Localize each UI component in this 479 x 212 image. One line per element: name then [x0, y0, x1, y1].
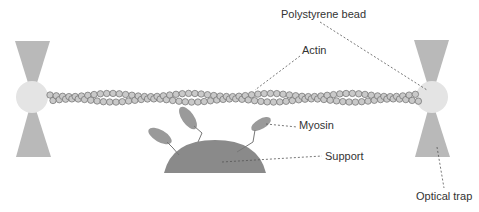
actin-monomer — [255, 91, 261, 97]
actin-monomer — [277, 99, 283, 105]
actin-monomer — [195, 99, 201, 105]
actin-monomer — [337, 91, 343, 97]
actin-monomer — [274, 90, 280, 96]
actin-monomer — [182, 99, 188, 105]
actin-monomer — [264, 99, 270, 105]
left-trap-lower-cone — [16, 110, 51, 157]
actin-monomer — [415, 98, 421, 104]
support-with-myosin — [146, 104, 273, 173]
actin-monomer — [122, 91, 128, 97]
actin-monomer — [251, 98, 257, 104]
actin-monomer — [343, 90, 349, 96]
actin-monomer — [340, 98, 346, 104]
actin-monomer — [113, 99, 119, 105]
actin-monomer — [94, 98, 100, 104]
left-optical-trap — [15, 41, 51, 157]
actin-monomer — [91, 91, 97, 97]
label-polystyrene-bead: Polystyrene bead — [281, 8, 366, 20]
label-optical-trap: Optical trap — [416, 190, 472, 202]
actin-monomer — [333, 98, 339, 104]
actin-monomer — [412, 91, 418, 97]
actin-monomer — [270, 99, 276, 105]
myosin-head-right — [249, 114, 273, 134]
actin-monomer — [198, 91, 204, 97]
actin-monomer — [349, 90, 355, 96]
actin-monomer — [283, 98, 289, 104]
right-trap-lower-cone — [415, 110, 450, 157]
actin-monomer — [125, 98, 131, 104]
myosin-tail-left — [167, 142, 179, 155]
leader-bead — [320, 22, 427, 90]
actin-monomer — [267, 90, 273, 96]
myosin-head-left — [146, 124, 175, 147]
actin-monomer — [365, 98, 371, 104]
actin-monomer — [352, 99, 358, 105]
actin-monomer — [204, 92, 210, 98]
actin-monomer — [97, 91, 103, 97]
actin-monomer — [362, 91, 368, 97]
label-support: Support — [325, 150, 364, 162]
actin-monomer — [104, 90, 110, 96]
left-trap-upper-cone — [15, 41, 50, 86]
actin-monomer — [116, 91, 122, 97]
actin-monomer — [88, 97, 94, 103]
actin-monomer — [188, 99, 194, 105]
actin-monomer — [201, 98, 207, 104]
actin-monomer — [173, 91, 179, 97]
actin-monomer — [170, 97, 176, 103]
actin-monomer — [346, 99, 352, 105]
actin-monomer — [280, 91, 286, 97]
actin-monomer — [409, 97, 415, 103]
actin-monomer — [261, 90, 267, 96]
support-dome — [164, 140, 266, 173]
actin-monomer — [100, 99, 106, 105]
actin-monomer — [359, 99, 365, 105]
actin-monomer — [176, 98, 182, 104]
optical-trap-diagram — [0, 0, 479, 212]
actin-monomer — [107, 99, 113, 105]
actin-monomer — [330, 91, 336, 97]
actin-monomer — [185, 90, 191, 96]
leader-myosin — [266, 124, 297, 127]
actin-monomer — [110, 90, 116, 96]
label-myosin: Myosin — [299, 119, 334, 131]
actin-monomer — [248, 92, 254, 98]
leader-actin — [255, 56, 300, 90]
actin-monomer — [179, 91, 185, 97]
actin-monomer — [258, 98, 264, 104]
actin-monomer — [119, 99, 125, 105]
actin-monomer — [356, 91, 362, 97]
label-actin: Actin — [302, 44, 326, 56]
right-polystyrene-bead — [416, 81, 448, 113]
actin-monomer — [192, 90, 198, 96]
left-polystyrene-bead — [16, 81, 48, 113]
actin-filament — [47, 90, 422, 105]
right-trap-upper-cone — [414, 40, 449, 86]
